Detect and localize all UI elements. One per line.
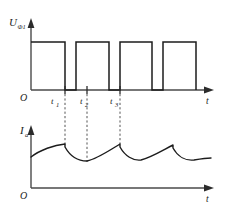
bottom-plot-group: I a O t <box>19 124 214 204</box>
bottom-origin-label: O <box>20 190 27 201</box>
tick-label-t3-subscript: 3 <box>114 101 119 108</box>
top-square-waveform <box>31 42 196 90</box>
top-x-axis-label: t <box>206 96 209 106</box>
top-x-axis-arrowhead <box>204 87 214 94</box>
bottom-y-axis-label-subscript: a <box>25 131 28 138</box>
tick-label-t2: t <box>80 96 83 106</box>
bottom-x-axis-label: t <box>206 194 209 204</box>
tick-label-t3: t <box>110 96 113 106</box>
top-y-axis-arrowhead <box>28 18 35 28</box>
top-y-axis-label-subscript: Φ1 <box>18 23 26 30</box>
tick-label-t1-subscript: 1 <box>56 101 59 108</box>
top-plot-group: U Φ1 O t t 1 t 2 t 3 <box>9 16 214 108</box>
figure-canvas: U Φ1 O t t 1 t 2 t 3 <box>0 0 228 216</box>
top-origin-label: O <box>20 92 27 103</box>
bottom-y-axis-arrowhead <box>28 125 35 135</box>
tick-label-t1: t <box>51 96 54 106</box>
waveform-figure: U Φ1 O t t 1 t 2 t 3 <box>0 0 228 216</box>
bottom-ripple-waveform <box>31 144 211 161</box>
bottom-x-axis-arrowhead <box>204 185 214 192</box>
